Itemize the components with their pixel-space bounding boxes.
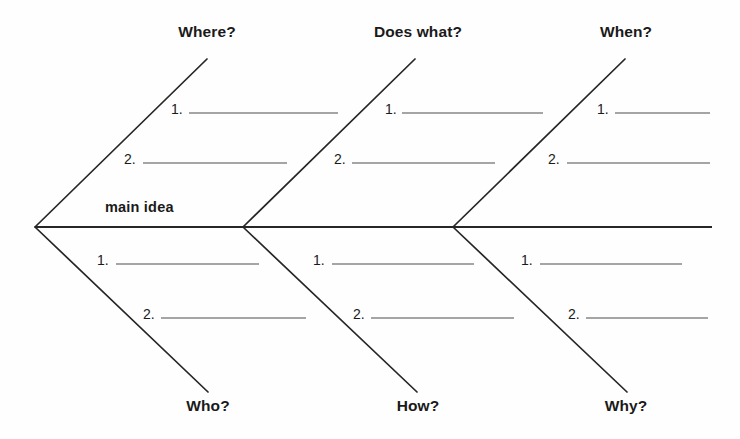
write-in-field-how-1[interactable] xyxy=(332,248,474,264)
category-label-how: How? xyxy=(397,398,440,414)
write-in-field-why-2[interactable] xyxy=(586,302,708,318)
item-number-does-what-2: 2. xyxy=(334,152,346,166)
category-label-who: Who? xyxy=(186,398,229,414)
category-label-why: Why? xyxy=(605,398,648,414)
write-in-field-where-1[interactable] xyxy=(189,97,338,113)
item-number-when-1: 1. xyxy=(597,102,609,116)
write-in-field-who-2[interactable] xyxy=(161,302,306,318)
fishbone-diagram: Where?1.2.Does what?1.2.When?1.2.Who?1.2… xyxy=(0,0,740,439)
category-label-where: Where? xyxy=(178,24,235,40)
bone-line-does-what xyxy=(243,59,415,227)
write-in-field-does-what-1[interactable] xyxy=(402,97,543,113)
item-number-how-1: 1. xyxy=(313,253,325,267)
item-number-who-2: 2. xyxy=(143,307,155,321)
item-number-why-1: 1. xyxy=(521,253,533,267)
item-number-where-1: 1. xyxy=(171,102,183,116)
write-in-rules-group xyxy=(116,113,710,318)
write-in-field-does-what-2[interactable] xyxy=(352,147,495,163)
write-in-field-where-2[interactable] xyxy=(143,147,287,163)
item-number-why-2: 2. xyxy=(568,307,580,321)
item-number-where-2: 2. xyxy=(124,152,136,166)
item-number-does-what-1: 1. xyxy=(385,102,397,116)
item-number-who-1: 1. xyxy=(97,253,109,267)
item-number-when-2: 2. xyxy=(548,152,560,166)
write-in-field-why-1[interactable] xyxy=(540,248,682,264)
write-in-field-how-2[interactable] xyxy=(371,302,514,318)
write-in-field-when-1[interactable] xyxy=(615,97,710,113)
main-idea-label: main idea xyxy=(105,200,174,215)
bone-line-when xyxy=(453,59,625,227)
diagram-lines-layer xyxy=(0,0,740,439)
category-label-does-what: Does what? xyxy=(374,24,462,40)
write-in-field-who-1[interactable] xyxy=(116,248,259,264)
write-in-field-when-2[interactable] xyxy=(567,147,710,163)
category-label-when: When? xyxy=(600,24,652,40)
item-number-how-2: 2. xyxy=(353,307,365,321)
